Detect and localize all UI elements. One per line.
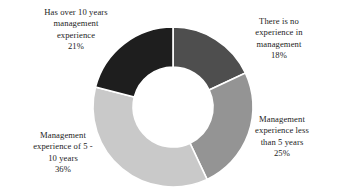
- slice-label-line: management: [24, 18, 128, 29]
- slice-label-less-than-5-years: Management experience less than 5 years …: [230, 114, 334, 160]
- slice-label-line: experience: [24, 30, 128, 41]
- slice-label-line: than 5 years: [230, 137, 334, 148]
- donut-chart-figure: Has over 10 years management experience …: [0, 0, 343, 196]
- slice-label-line: 10 years: [8, 153, 118, 164]
- slice-label-percent: 18%: [230, 50, 328, 61]
- slice-label-line: Management: [230, 114, 334, 125]
- slice-label-percent: 21%: [24, 41, 128, 52]
- slice-label-percent: 36%: [8, 164, 118, 175]
- slice-label-line: Has over 10 years: [24, 7, 128, 18]
- slice-label-over-10-years: Has over 10 years management experience …: [24, 7, 128, 53]
- slice-label-line: experience less: [230, 125, 334, 136]
- slice-label-line: There is no: [230, 16, 328, 27]
- slice-label-line: experience of 5 -: [8, 141, 118, 152]
- slice-label-line: Management: [8, 130, 118, 141]
- slice-label-line: management: [230, 39, 328, 50]
- slice-label-percent: 25%: [230, 148, 334, 159]
- slice-label-line: experience in: [230, 27, 328, 38]
- slice-label-5-to-10-years: Management experience of 5 - 10 years 36…: [8, 130, 118, 176]
- slice-label-no-experience: There is no experience in management 18%: [230, 16, 328, 62]
